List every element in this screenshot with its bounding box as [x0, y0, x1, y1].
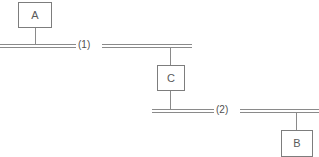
node-box-b: B	[281, 130, 313, 157]
bus-1-segment-left	[0, 44, 76, 48]
bus-2-segment-left	[152, 109, 214, 113]
node-label-c: C	[167, 73, 175, 84]
node-label-a: A	[31, 10, 39, 21]
connector-bus-1-to-c	[170, 46, 171, 66]
node-box-a: A	[18, 2, 52, 28]
bus-1-label: (1)	[78, 40, 90, 50]
bus-2-segment-right	[240, 109, 319, 113]
bus-1-segment-right	[102, 44, 192, 48]
connector-c-to-bus-2	[170, 91, 171, 111]
node-box-c: C	[157, 65, 185, 91]
diagram-canvas: (1) (2) A C B	[0, 0, 319, 157]
node-label-b: B	[293, 138, 301, 149]
bus-2-label: (2)	[216, 105, 228, 115]
connector-bus-2-to-b	[296, 111, 297, 131]
